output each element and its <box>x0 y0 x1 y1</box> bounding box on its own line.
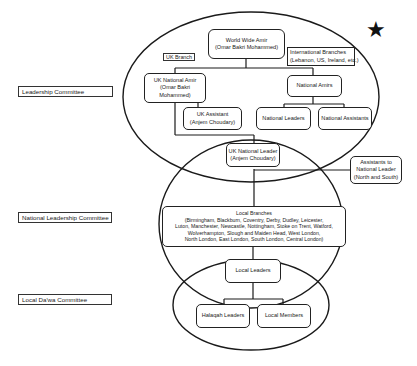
assistants-line3: (North and South) <box>354 174 398 181</box>
local-branches-line: North London, East London, South London,… <box>185 236 324 243</box>
national-leaders-title: National Leaders <box>262 115 304 122</box>
uk-national-leader-node: UK National Leader (Anjem Choudary) <box>226 143 280 167</box>
national-leadership-committee-label: National Leadership Committee <box>18 212 112 223</box>
local-members-node: Local Members <box>257 304 311 328</box>
local-leaders-title: Local Leaders <box>235 267 270 274</box>
halaqah-leaders-node: Halaqah Leaders <box>196 304 250 328</box>
uk-national-amir-line2: (Omar Bakri <box>160 84 190 91</box>
world-wide-amir-name: (Omar Bakri Mohammed) <box>215 44 278 51</box>
uk-assistant-title: UK Assistant <box>197 111 229 118</box>
star-icon: ★ <box>366 19 386 41</box>
national-leaders-node: National Leaders <box>256 107 311 130</box>
national-assistants-title: National Assistants <box>321 115 368 122</box>
uk-assistant-node: UK Assistant (Anjem Choudary) <box>183 107 242 130</box>
uk-assistant-name: (Anjem Choudary) <box>190 119 235 126</box>
international-branches-node: International Branches (Lebanon, US, Ire… <box>287 47 355 66</box>
world-wide-amir-node: World Wide Amir (Omar Bakri Mohammed) <box>208 29 285 59</box>
halaqah-leaders-title: Halaqah Leaders <box>202 312 245 319</box>
national-assistants-node: National Assistants <box>318 107 372 130</box>
uk-national-leader-name: (Anjem Choudary) <box>230 155 275 162</box>
uk-national-leader-title: UK National Leader <box>229 148 278 155</box>
assistants-to-national-leader-node: Assistants to National Leader (North and… <box>350 156 402 184</box>
local-dawa-committee-label: Local Da'wa Committee <box>18 294 112 305</box>
national-amirs-node: National Amirs <box>287 75 342 97</box>
uk-national-amir-line3: Mohammed) <box>159 92 190 99</box>
local-leaders-node: Local Leaders <box>225 259 281 283</box>
uk-national-amir-line1: UK National Amir <box>154 77 197 84</box>
world-wide-amir-title: World Wide Amir <box>226 37 268 44</box>
assistants-line2: National Leader <box>356 166 396 173</box>
assistants-line1: Assistants to <box>360 159 392 166</box>
uk-national-amir-node: UK National Amir (Omar Bakri Mohammed) <box>144 73 206 103</box>
local-branches-node: Local Branches (Birmingham, Blackburn, C… <box>162 206 346 247</box>
international-branches-title: International Branches <box>290 49 346 56</box>
local-members-title: Local Members <box>265 312 303 319</box>
national-amirs-title: National Amirs <box>296 82 332 89</box>
leadership-committee-label: Leadership Committee <box>18 86 113 97</box>
uk-branch-tag: UK Branch <box>163 53 195 61</box>
international-branches-detail: (Lebanon, US, Ireland, etc.) <box>290 57 359 64</box>
